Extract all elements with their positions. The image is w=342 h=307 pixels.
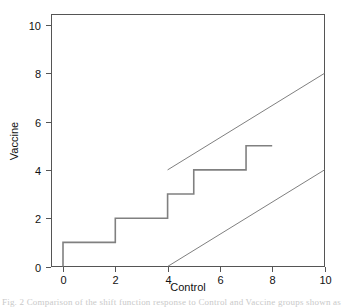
figure-container: 0246810 0246810 Control Vaccine Fig. 2 C…	[0, 0, 342, 307]
x-tick-label-2: 2	[112, 274, 118, 286]
x-tick-label-0: 0	[60, 274, 66, 286]
plot-box-border	[52, 15, 325, 267]
y-tick-label-2: 2	[35, 213, 41, 225]
y-tick-label-6: 6	[35, 117, 41, 129]
step-function-plot: 0246810 0246810 Control Vaccine	[0, 0, 342, 307]
x-tick-label-6: 6	[217, 274, 223, 286]
caption-strip: Fig. 2 Comparison of the shift function …	[0, 298, 342, 307]
y-axis-ticks	[46, 26, 51, 268]
x-tick-label-10: 10	[319, 274, 331, 286]
y-tick-label-10: 10	[29, 20, 41, 32]
y-tick-label-0: 0	[35, 262, 41, 274]
series-lower-reference-line	[168, 170, 325, 267]
data-series-group	[63, 73, 325, 266]
y-tick-label-8: 8	[35, 68, 41, 80]
x-axis-title: Control	[170, 281, 205, 293]
y-axis-title: Vaccine	[8, 122, 20, 160]
y-tick-label-4: 4	[35, 165, 41, 177]
series-step-function	[63, 146, 272, 267]
caption-cut-text: Fig. 2 Comparison of the shift function …	[0, 298, 342, 307]
y-axis-tick-labels: 0246810	[29, 20, 41, 274]
x-tick-label-8: 8	[269, 274, 275, 286]
x-axis-ticks	[64, 267, 326, 272]
